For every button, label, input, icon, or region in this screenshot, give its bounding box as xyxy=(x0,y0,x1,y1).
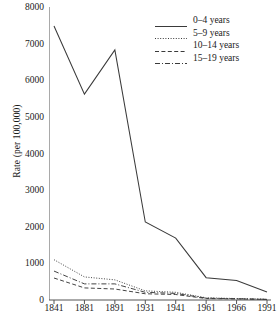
legend-swatch-solid-icon xyxy=(155,20,187,21)
y-axis-tick-label: 3000 xyxy=(4,185,44,195)
y-axis-tick-label: 2000 xyxy=(4,222,44,232)
y-axis-tick-label: 1000 xyxy=(4,258,44,268)
legend-label: 0–4 years xyxy=(193,15,230,25)
x-axis-tick-label: 1991 xyxy=(247,303,279,313)
chart-figure: Rate (per 100,000) 010002000300040005000… xyxy=(0,0,279,328)
y-axis-tick-label: 6000 xyxy=(4,75,44,85)
series-line-2 xyxy=(54,278,267,299)
legend-item: 0–4 years xyxy=(155,14,239,27)
legend-label: 10–14 years xyxy=(193,40,239,50)
legend-label: 5–9 years xyxy=(193,28,230,38)
y-axis-title: Rate (per 100,000) xyxy=(12,81,22,201)
series-line-0 xyxy=(54,26,267,292)
legend-swatch-dashdot-icon xyxy=(155,57,187,58)
legend-swatch-dashed-icon xyxy=(155,45,187,46)
y-axis-tick-label: 5000 xyxy=(4,112,44,122)
chart-legend: 0–4 years5–9 years10–14 years15–19 years xyxy=(155,14,239,64)
legend-label: 15–19 years xyxy=(193,53,239,63)
legend-item: 15–19 years xyxy=(155,52,239,65)
series-line-1 xyxy=(54,260,267,300)
series-line-3 xyxy=(54,271,267,299)
y-axis-tick-label: 7000 xyxy=(4,39,44,49)
legend-item: 5–9 years xyxy=(155,27,239,40)
legend-swatch-dotted-icon xyxy=(155,32,187,33)
y-axis-tick-label: 4000 xyxy=(4,149,44,159)
y-axis-tick-label: 8000 xyxy=(4,2,44,12)
legend-item: 10–14 years xyxy=(155,39,239,52)
